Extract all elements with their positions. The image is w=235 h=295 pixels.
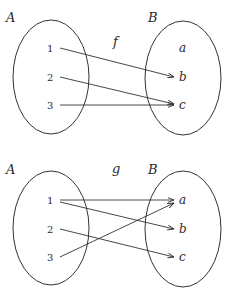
codomain-element-c: c <box>179 98 186 112</box>
domain-element-1: 1 <box>47 195 53 206</box>
diagram-f: A B f 1 2 3 a b c <box>5 10 221 135</box>
codomain-element-c: c <box>179 250 186 264</box>
domain-element-2: 2 <box>47 224 53 235</box>
codomain-element-a: a <box>179 193 186 207</box>
domain-label-a: A <box>5 10 15 25</box>
domain-label-a: A <box>5 162 15 177</box>
codomain-element-a: a <box>179 41 186 55</box>
mapping-arrow-1-to-b <box>60 48 174 77</box>
function-label-g: g <box>112 161 120 176</box>
mapping-arrow-3-to-a <box>60 203 174 257</box>
mapping-diagrams: A B f 1 2 3 a b c A B g 1 2 3 a b c <box>0 0 235 295</box>
codomain-label-b: B <box>147 10 158 25</box>
domain-element-3: 3 <box>47 100 53 111</box>
codomain-element-b: b <box>179 70 187 84</box>
domain-element-1: 1 <box>47 43 53 54</box>
diagram-g: A B g 1 2 3 a b c <box>5 161 221 287</box>
domain-element-3: 3 <box>47 252 53 263</box>
domain-element-2: 2 <box>47 72 53 83</box>
mapping-arrow-2-to-c <box>60 229 174 257</box>
mapping-arrow-1-to-b <box>60 202 174 229</box>
codomain-label-b: B <box>147 162 158 177</box>
mapping-arrow-2-to-c <box>60 77 174 104</box>
function-label-f: f <box>112 34 120 49</box>
codomain-element-b: b <box>179 222 187 236</box>
